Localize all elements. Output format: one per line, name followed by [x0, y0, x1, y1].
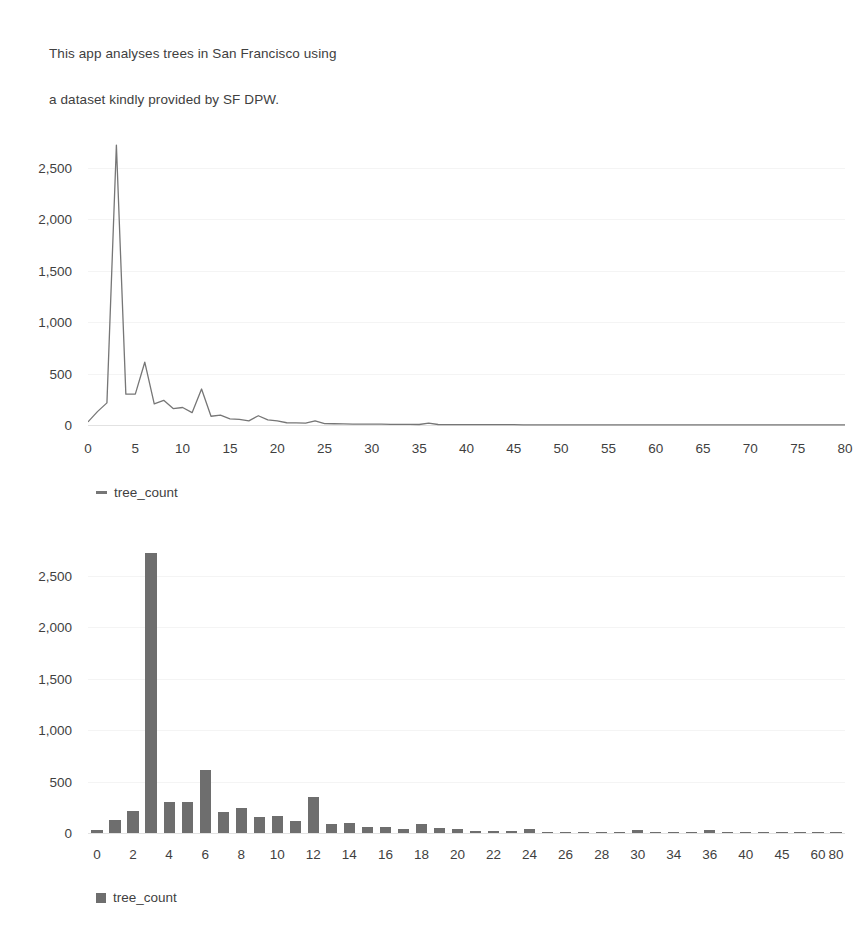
intro-line-1: This app analyses trees in San Francisco…	[49, 46, 749, 63]
line-path	[88, 145, 845, 425]
bar	[290, 821, 301, 833]
bar	[91, 830, 102, 833]
y-tick-label: 0	[64, 418, 72, 433]
bar-chart-legend: tree_count	[96, 890, 177, 905]
x-tick-label: 20	[450, 847, 465, 862]
x-tick-label: 20	[270, 441, 285, 456]
x-tick-label: 75	[790, 441, 805, 456]
x-tick-label: 5	[132, 441, 140, 456]
y-tick-label: 500	[49, 774, 72, 789]
bar	[488, 831, 499, 833]
x-tick-label: 10	[175, 441, 190, 456]
bar	[254, 817, 265, 833]
x-tick-label: 0	[84, 441, 92, 456]
bar	[704, 830, 715, 833]
x-tick-label: 60	[810, 847, 825, 862]
x-tick-label: 2	[129, 847, 137, 862]
y-tick-label: 1,500	[38, 263, 72, 278]
bar	[344, 823, 355, 833]
bar	[650, 832, 661, 834]
y-tick-label: 2,000	[38, 212, 72, 227]
bar	[542, 832, 553, 834]
bar	[596, 832, 607, 834]
x-tick-label: 55	[601, 441, 616, 456]
bar	[398, 829, 409, 833]
bar	[127, 811, 138, 833]
bar	[236, 808, 247, 833]
x-tick-label: 26	[558, 847, 573, 862]
bar-chart-plot-area	[88, 538, 845, 839]
bar	[182, 802, 193, 833]
y-tick-label: 1,000	[38, 315, 72, 330]
x-tick-label: 60	[648, 441, 663, 456]
y-tick-label: 2,500	[38, 568, 72, 583]
x-tick-label: 18	[414, 847, 429, 862]
bar-legend-marker-icon	[96, 893, 106, 903]
y-tick-label: 1,500	[38, 671, 72, 686]
x-tick-label: 12	[306, 847, 321, 862]
bar-chart: 05001,0001,5002,0002,500 024681012141618…	[0, 538, 859, 883]
line-series-tree_count	[88, 130, 845, 431]
bar	[794, 832, 805, 834]
x-tick-label: 0	[93, 847, 101, 862]
bar	[272, 816, 283, 833]
bar-legend-label: tree_count	[113, 890, 177, 905]
line-legend-marker-icon	[96, 491, 107, 494]
x-tick-label: 34	[666, 847, 681, 862]
bar	[758, 832, 769, 834]
bar	[362, 827, 373, 833]
bar	[776, 832, 787, 834]
bar	[812, 832, 823, 834]
bar	[632, 830, 643, 833]
bar	[560, 832, 571, 834]
bar	[218, 812, 229, 833]
bar	[200, 770, 211, 833]
y-tick-label: 2,500	[38, 160, 72, 175]
x-tick-label: 14	[342, 847, 357, 862]
x-tick-label: 30	[364, 441, 379, 456]
intro-text: This app analyses trees in San Francisco…	[49, 46, 749, 109]
bar	[452, 829, 463, 833]
bar	[164, 802, 175, 833]
x-tick-label: 6	[201, 847, 209, 862]
x-tick-label: 70	[743, 441, 758, 456]
bar	[308, 797, 319, 833]
bar	[380, 827, 391, 833]
x-tick-label: 24	[522, 847, 537, 862]
x-tick-label: 40	[738, 847, 753, 862]
x-tick-label: 10	[270, 847, 285, 862]
line-legend-label: tree_count	[114, 485, 178, 500]
bar	[668, 832, 679, 834]
y-tick-label: 1,000	[38, 723, 72, 738]
x-tick-label: 80	[837, 441, 852, 456]
x-tick-label: 22	[486, 847, 501, 862]
bar	[109, 820, 120, 833]
bar	[416, 824, 427, 833]
x-tick-label: 80	[828, 847, 843, 862]
bar-series-tree_count	[88, 550, 845, 833]
x-tick-label: 30	[630, 847, 645, 862]
bar	[326, 824, 337, 833]
x-tick-label: 40	[459, 441, 474, 456]
line-chart-legend: tree_count	[96, 485, 178, 500]
line-chart-plot-area	[88, 130, 845, 431]
bar	[524, 829, 535, 833]
x-tick-label: 25	[317, 441, 332, 456]
x-tick-label: 28	[594, 847, 609, 862]
bar	[506, 831, 517, 833]
line-chart: 05001,0001,5002,0002,500 051015202530354…	[0, 130, 859, 475]
x-tick-label: 15	[222, 441, 237, 456]
bar	[830, 832, 841, 834]
x-tick-label: 65	[696, 441, 711, 456]
bar	[434, 828, 445, 833]
intro-line-2: a dataset kindly provided by SF DPW.	[49, 92, 749, 109]
bar	[740, 832, 751, 834]
bar	[722, 832, 733, 834]
x-tick-label: 45	[774, 847, 789, 862]
bar	[145, 553, 156, 833]
x-tick-label: 45	[506, 441, 521, 456]
bar	[470, 831, 481, 833]
y-tick-label: 0	[64, 826, 72, 841]
axis-baseline	[88, 833, 845, 834]
x-tick-label: 4	[165, 847, 173, 862]
